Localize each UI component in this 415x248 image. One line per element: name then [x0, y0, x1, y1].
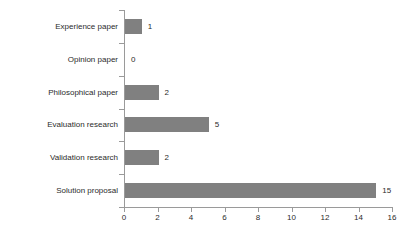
value-tick-label: 16 [377, 212, 407, 224]
bar-row: Evaluation research5 [0, 117, 415, 133]
bar [125, 85, 159, 100]
bar-value-label: 1 [148, 19, 152, 35]
category-tick [119, 10, 124, 11]
category-label: Experience paper [0, 19, 118, 35]
bar-value-label: 2 [165, 150, 169, 166]
category-tick [119, 141, 124, 142]
category-label: Philosophical paper [0, 85, 118, 101]
category-label: Solution proposal [0, 183, 118, 199]
value-tick-label: 0 [109, 212, 139, 224]
bar-row: Solution proposal15 [0, 183, 415, 199]
bar-chart: Experience paper1Opinion paper0Philosoph… [0, 0, 415, 248]
category-label: Validation research [0, 150, 118, 166]
bar-row: Philosophical paper2 [0, 85, 415, 101]
category-tick [119, 76, 124, 77]
plot-area: Experience paper1Opinion paper0Philosoph… [0, 0, 415, 248]
category-axis-line [124, 10, 125, 208]
bar-row: Experience paper1 [0, 19, 415, 35]
category-tick [119, 109, 124, 110]
bar-value-label: 15 [382, 183, 391, 199]
value-tick-label: 12 [310, 212, 340, 224]
bar [125, 19, 142, 34]
value-tick-label: 4 [176, 212, 206, 224]
bar-value-label: 0 [131, 52, 135, 68]
bar [125, 150, 159, 165]
category-tick [119, 43, 124, 44]
bar-value-label: 2 [165, 85, 169, 101]
value-tick-label: 8 [243, 212, 273, 224]
category-label: Opinion paper [0, 52, 118, 68]
bar [125, 183, 376, 198]
value-tick-label: 6 [210, 212, 240, 224]
bar [125, 117, 209, 132]
value-tick-label: 10 [277, 212, 307, 224]
category-label: Evaluation research [0, 117, 118, 133]
category-tick [119, 174, 124, 175]
value-tick-label: 2 [143, 212, 173, 224]
value-tick-label: 14 [344, 212, 374, 224]
bar-value-label: 5 [215, 117, 219, 133]
bar-row: Validation research2 [0, 150, 415, 166]
bar-row: Opinion paper0 [0, 52, 415, 68]
